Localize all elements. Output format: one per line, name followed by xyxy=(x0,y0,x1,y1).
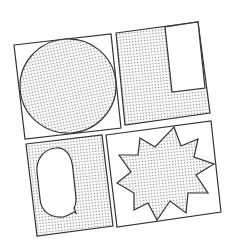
white-box-shape xyxy=(165,22,205,92)
speech-bubble-shape xyxy=(37,148,76,217)
panel-l-shape xyxy=(116,22,210,125)
panel-speech-bubble xyxy=(26,135,113,236)
comic-layout-illustration: Comic panel layout icon xyxy=(0,0,227,250)
panel-starburst xyxy=(106,121,221,227)
comic-panels-svg xyxy=(0,0,227,250)
panel-circle xyxy=(14,34,121,139)
